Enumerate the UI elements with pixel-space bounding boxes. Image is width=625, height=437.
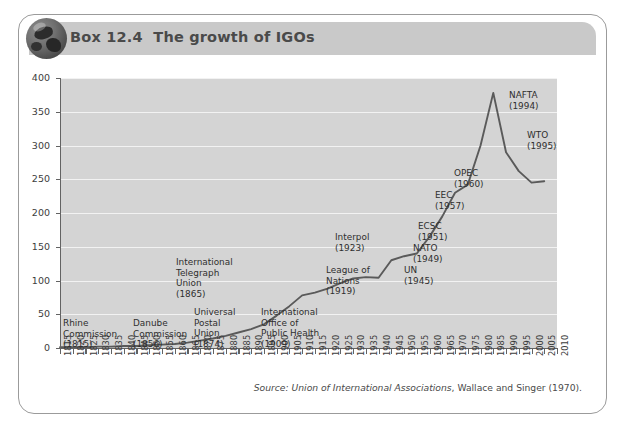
x-axis-tick xyxy=(226,349,227,354)
x-axis-label: 1970 xyxy=(458,335,468,356)
x-axis-tick xyxy=(557,349,558,354)
x-axis-tick xyxy=(315,349,316,354)
y-axis-label: 300 xyxy=(20,140,50,151)
annotation-international-telegraph-union: International Telegraph Union (1865) xyxy=(176,257,233,299)
source-prefix: Source: xyxy=(254,382,289,393)
y-axis-tick xyxy=(56,112,61,113)
x-axis-tick xyxy=(60,349,61,354)
annotation-international-office-of-public-health: International Office of Public Health (1… xyxy=(261,307,319,349)
annotation-rhine-commission: Rhine Commission (1815) xyxy=(63,318,117,350)
globe-icon xyxy=(26,18,67,59)
x-axis-tick xyxy=(353,349,354,354)
x-axis-label: 1980 xyxy=(484,335,494,356)
x-axis-label: 1940 xyxy=(382,335,392,356)
x-axis-tick xyxy=(532,349,533,354)
x-axis-label: 1920 xyxy=(331,335,341,356)
x-axis-label: 1885 xyxy=(242,335,252,356)
y-axis-tick xyxy=(56,213,61,214)
x-axis-tick xyxy=(417,349,418,354)
x-axis-tick xyxy=(506,349,507,354)
x-axis-label: 2010 xyxy=(560,335,570,356)
x-axis-label: 1945 xyxy=(395,335,405,356)
annotation-league-of-nations: League of Nations (1919) xyxy=(326,265,370,297)
box-title: Box 12.4 The growth of IGOs xyxy=(70,29,315,45)
x-axis-tick xyxy=(430,349,431,354)
x-axis-label: 2000 xyxy=(535,335,545,356)
x-axis-label: 1950 xyxy=(407,335,417,356)
y-axis-label: 400 xyxy=(20,72,50,83)
y-axis-label: 150 xyxy=(20,241,50,252)
x-axis-tick xyxy=(366,349,367,354)
x-axis-tick xyxy=(187,349,188,354)
chart-container: 050100150200250300350400 181518201825183… xyxy=(29,60,596,395)
annotation-wto: WTO (1995) xyxy=(527,130,557,151)
x-axis-tick xyxy=(544,349,545,354)
x-axis-label: 1995 xyxy=(522,335,532,356)
x-axis-tick xyxy=(328,349,329,354)
y-axis-label: 200 xyxy=(20,207,50,218)
y-axis-tick xyxy=(56,281,61,282)
y-axis-tick xyxy=(56,179,61,180)
annotation-opec: OPEC (1960) xyxy=(454,168,484,189)
screenshot-root: Box 12.4 The growth of IGOs 050100150200… xyxy=(0,0,625,437)
x-axis-label: 1975 xyxy=(471,335,481,356)
x-axis-tick xyxy=(213,349,214,354)
y-axis-label: 50 xyxy=(20,308,50,319)
y-axis-label: 0 xyxy=(20,342,50,353)
x-axis-tick xyxy=(200,349,201,354)
x-axis-tick xyxy=(238,349,239,354)
x-axis-tick xyxy=(124,349,125,354)
x-axis-tick xyxy=(391,349,392,354)
x-axis-label: 1990 xyxy=(509,335,519,356)
annotation-un: UN (1945) xyxy=(404,265,434,286)
x-axis-label: 1960 xyxy=(433,335,443,356)
x-axis-tick xyxy=(493,349,494,354)
annotation-ecsc: ECSC (1951) xyxy=(418,221,448,242)
x-axis-label: 1915 xyxy=(318,335,328,356)
y-axis-label: 250 xyxy=(20,173,50,184)
annotation-eec: EEC (1957) xyxy=(435,190,465,211)
x-axis-tick xyxy=(289,349,290,354)
x-axis-label: 2005 xyxy=(547,335,557,356)
y-axis-label: 350 xyxy=(20,106,50,117)
y-axis-tick xyxy=(56,314,61,315)
x-axis-tick xyxy=(340,349,341,354)
x-axis-label: 1930 xyxy=(356,335,366,356)
source-rest: , Wallace and Singer (1970). xyxy=(452,382,582,393)
x-axis-tick xyxy=(481,349,482,354)
annotation-nafta: NAFTA (1994) xyxy=(509,90,539,111)
x-axis-tick xyxy=(264,349,265,354)
y-axis-tick xyxy=(56,247,61,248)
source-organization: Union of International Associations xyxy=(292,382,452,393)
x-axis-label: 1925 xyxy=(344,335,354,356)
x-axis-tick xyxy=(404,349,405,354)
y-axis-label: 100 xyxy=(20,275,50,286)
x-axis-tick xyxy=(442,349,443,354)
x-axis-tick xyxy=(251,349,252,354)
y-axis-tick xyxy=(56,78,61,79)
annotation-danube-commission: Danube Commission (1856) xyxy=(133,318,187,350)
x-axis-label: 1955 xyxy=(420,335,430,356)
x-axis-label: 1985 xyxy=(496,335,506,356)
annotation-universal-postal-union: Universal Postal Union (1874) xyxy=(194,307,235,349)
x-axis-tick xyxy=(277,349,278,354)
x-axis-tick xyxy=(379,349,380,354)
annotation-interpol: Interpol (1923) xyxy=(335,232,369,253)
x-axis-label: 1935 xyxy=(369,335,379,356)
y-axis-tick xyxy=(56,146,61,147)
x-axis-tick xyxy=(455,349,456,354)
source-note: Source: Union of International Associati… xyxy=(29,382,582,393)
annotation-nato: NATO (1949) xyxy=(413,243,443,264)
x-axis-tick xyxy=(468,349,469,354)
x-axis-label: 1965 xyxy=(446,335,456,356)
x-axis-tick xyxy=(519,349,520,354)
x-axis-tick xyxy=(302,349,303,354)
